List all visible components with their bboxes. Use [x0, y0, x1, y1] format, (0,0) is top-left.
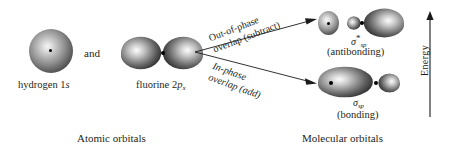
hydrogen-name: hydrogen: [18, 79, 58, 90]
orbital-diagram-figure: and hydrogen 1s fluorine 2px Atomic orbi…: [0, 0, 455, 154]
antibonding-tiny-lobe: [347, 16, 361, 30]
energy-axis-label: Energy: [419, 38, 430, 84]
fluorine-2p-orbital: [121, 34, 203, 74]
bonding-descriptor: (bonding): [337, 110, 378, 121]
hydrogen-1s-orbital: [29, 29, 73, 73]
fluorine-left-lobe: [121, 36, 162, 70]
bonding-subscript: sp: [358, 102, 364, 109]
hydrogen-orbital-letter: s: [66, 79, 70, 90]
hydrogen-orbital-label: hydrogen 1s: [18, 80, 70, 91]
antibonding-descriptor: (antibonding): [327, 47, 384, 58]
fluorine-nucleus-dot: [161, 51, 165, 55]
bonding-hydrogen-nucleus-dot: [374, 81, 378, 85]
antibonding-large-lobe: [363, 8, 404, 38]
bonding-fluorine-nucleus-dot: [329, 81, 333, 85]
conjunction-and: and: [84, 48, 100, 59]
atomic-orbitals-caption: Atomic orbitals: [77, 133, 146, 144]
antibonding-fluorine-nucleus-dot: [360, 21, 364, 25]
molecular-orbitals-caption: Molecular orbitals: [302, 133, 383, 144]
fluorine-orbital-subscript: x: [182, 84, 185, 92]
fluorine-orbital-label: fluorine 2px: [136, 80, 186, 92]
bonding-large-lobe: [318, 66, 374, 98]
bonding-small-lobe: [378, 73, 400, 93]
hydrogen-nucleus-dot: [49, 49, 52, 52]
antibonding-hydrogen-nucleus-dot: [327, 22, 330, 25]
bonding-orbital: [318, 66, 404, 98]
bonding-sigma-label: σsp: [353, 98, 364, 110]
fluorine-name: fluorine: [136, 79, 169, 90]
